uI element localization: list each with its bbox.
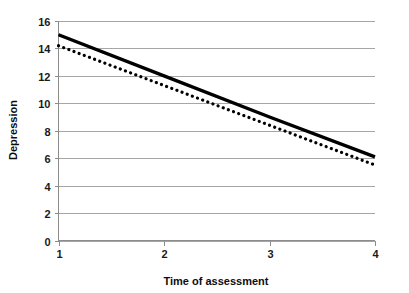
y-tick-label-4: 4 <box>44 181 51 193</box>
y-tick-label-2: 2 <box>44 208 50 220</box>
y-tick-label-16: 16 <box>38 16 50 28</box>
x-axis-title: Time of assessment <box>164 275 269 287</box>
y-tick-label-14: 14 <box>38 43 51 55</box>
y-tick-label-0: 0 <box>44 236 50 248</box>
y-axis-title: Depression <box>7 100 19 160</box>
y-tick-label-6: 6 <box>44 153 50 165</box>
x-tick-label-1: 1 <box>56 248 62 260</box>
x-tick-label-3: 3 <box>267 248 273 260</box>
y-tick-label-8: 8 <box>44 126 50 138</box>
x-tick-label-4: 4 <box>372 248 379 260</box>
y-tick-label-12: 12 <box>38 71 50 83</box>
chart-figure: 0246810121416 1234 Time of assessment De… <box>0 0 409 293</box>
x-tick-label-2: 2 <box>161 248 167 260</box>
depression-line-chart: 0246810121416 1234 Time of assessment De… <box>0 0 409 293</box>
y-tick-label-10: 10 <box>38 98 50 110</box>
